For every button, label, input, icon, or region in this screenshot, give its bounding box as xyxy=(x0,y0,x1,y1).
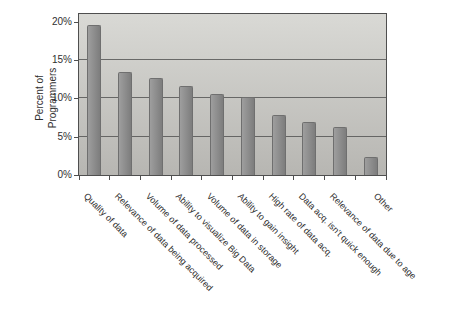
bar-10 xyxy=(364,157,378,175)
y-tick-label-5: 5% xyxy=(28,131,72,143)
bar-1 xyxy=(87,25,101,175)
gridline-15pct xyxy=(79,59,386,60)
y-tick-mark-20 xyxy=(74,22,78,23)
x-tick-mark-9 xyxy=(355,176,356,180)
plot-area xyxy=(78,13,387,176)
x-tick-mark-10 xyxy=(386,176,387,180)
bar-8 xyxy=(302,122,316,175)
y-tick-mark-0 xyxy=(74,175,78,176)
bar-6 xyxy=(241,97,255,175)
bar-7 xyxy=(272,115,286,175)
x-tick-mark-5 xyxy=(232,176,233,180)
x-tick-mark-3 xyxy=(171,176,172,180)
y-tick-label-10: 10% xyxy=(28,92,72,104)
x-tick-mark-8 xyxy=(324,176,325,180)
x-category-label-6: Ability to gain insight xyxy=(236,191,301,256)
y-tick-label-20: 20% xyxy=(28,16,72,28)
x-tick-mark-7 xyxy=(293,176,294,180)
x-tick-mark-6 xyxy=(263,176,264,180)
bar-3 xyxy=(149,78,163,175)
bar-2 xyxy=(118,72,132,176)
y-tick-label-0: 0% xyxy=(28,169,72,181)
y-tick-mark-15 xyxy=(74,60,78,61)
x-tick-mark-0 xyxy=(79,176,80,180)
x-category-label-10: Other xyxy=(372,191,395,214)
y-tick-label-15: 15% xyxy=(28,54,72,66)
y-tick-mark-5 xyxy=(74,137,78,138)
bar-9 xyxy=(333,127,347,175)
x-tick-mark-2 xyxy=(140,176,141,180)
bar-4 xyxy=(179,86,193,175)
bar-chart: Percent of Programmers 0%5%10%15%20% Qua… xyxy=(0,0,449,315)
x-tick-mark-1 xyxy=(109,176,110,180)
bar-5 xyxy=(210,94,224,175)
x-tick-mark-4 xyxy=(201,176,202,180)
y-tick-mark-10 xyxy=(74,98,78,99)
